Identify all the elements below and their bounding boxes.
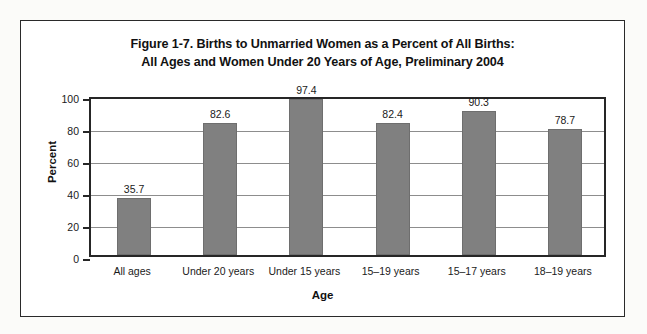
bar-slot: 35.7 — [91, 99, 177, 255]
bar[interactable] — [462, 111, 496, 255]
bar-slot: 97.4 — [263, 99, 349, 255]
plot-area: 020406080100 35.782.697.482.490.378.7 — [89, 97, 606, 257]
bar-value-label: 78.7 — [555, 114, 575, 126]
y-axis-tick-mark — [83, 163, 90, 165]
x-axis-category-label: Under 15 years — [269, 265, 341, 277]
x-axis-category-label: 15–19 years — [362, 265, 420, 277]
y-axis-tick-label: 100 — [61, 93, 79, 105]
y-axis-tick-mark — [83, 99, 90, 101]
y-axis-title-label: Percent — [46, 138, 58, 186]
bar[interactable] — [376, 123, 410, 255]
figure-title-line-2: All Ages and Women Under 20 Years of Age… — [21, 53, 624, 71]
y-axis-tick-mark — [83, 227, 90, 229]
bar-slot: 90.3 — [436, 99, 522, 255]
y-axis-tick-label: 40 — [67, 189, 79, 201]
bar[interactable] — [289, 99, 323, 255]
y-axis-tick-mark — [83, 195, 90, 197]
y-axis-tick-label: 80 — [67, 125, 79, 137]
bar-value-label: 82.6 — [210, 108, 230, 120]
x-axis-category-label: Under 20 years — [182, 265, 254, 277]
bar-slot: 82.6 — [177, 99, 263, 255]
bar-value-label: 97.4 — [296, 84, 316, 96]
y-axis-tick-label: 0 — [73, 253, 79, 265]
y-axis-tick-mark — [83, 131, 90, 133]
figure-frame: Figure 1-7. Births to Unmarried Women as… — [20, 20, 625, 317]
bar[interactable] — [203, 123, 237, 255]
bar[interactable] — [117, 198, 151, 255]
figure-title-line-1: Figure 1-7. Births to Unmarried Women as… — [21, 35, 624, 53]
y-axis-tick-label: 20 — [67, 221, 79, 233]
bar-value-label: 82.4 — [382, 108, 402, 120]
x-axis-category-label: 15–17 years — [448, 265, 506, 277]
x-axis-title: Age — [21, 289, 624, 301]
bar-value-label: 90.3 — [469, 96, 489, 108]
bar-slot: 78.7 — [522, 99, 608, 255]
x-axis-category-label: All ages — [113, 265, 150, 277]
bar-value-label: 35.7 — [124, 183, 144, 195]
bar[interactable] — [548, 129, 582, 255]
y-axis-tick-mark — [83, 259, 90, 261]
x-axis-category-label: 18–19 years — [534, 265, 592, 277]
bar-slot: 82.4 — [350, 99, 436, 255]
y-axis-tick-label: 60 — [67, 157, 79, 169]
figure-title: Figure 1-7. Births to Unmarried Women as… — [21, 35, 624, 72]
